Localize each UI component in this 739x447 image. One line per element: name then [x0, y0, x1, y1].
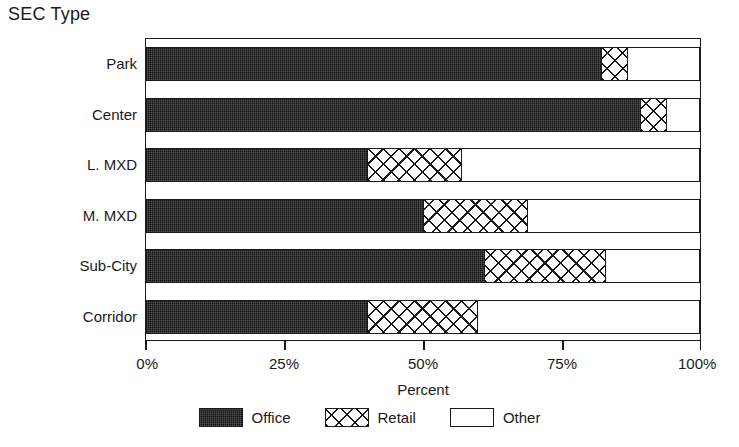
x-tick-mark — [562, 341, 564, 350]
category-label-m-mxd: M. MXD — [7, 208, 137, 223]
x-tick-mark — [145, 341, 147, 350]
x-tick-mark — [284, 341, 286, 350]
legend-label: Other — [503, 409, 541, 426]
bar-row — [146, 98, 700, 132]
legend-swatch-other — [450, 408, 494, 427]
bar-row — [146, 249, 700, 283]
bar-segment-office — [146, 47, 602, 81]
bar-segment-retail — [640, 98, 668, 132]
legend-label: Retail — [378, 409, 416, 426]
legend-swatch-office — [199, 408, 243, 427]
plot-area — [145, 38, 701, 341]
bar-segment-retail — [484, 249, 606, 283]
bar-segment-other — [605, 249, 700, 283]
bar-rows — [146, 39, 700, 340]
page-title: SEC Type — [8, 4, 90, 25]
bar-segment-office — [146, 98, 641, 132]
legend-label: Office — [252, 409, 291, 426]
bar-segment-retail — [367, 300, 478, 334]
x-tick-mark — [700, 341, 702, 350]
legend-swatch-retail — [325, 408, 369, 427]
bar-segment-other — [477, 300, 699, 334]
bar-row — [146, 300, 700, 334]
x-tick-mark — [423, 341, 425, 350]
category-label-corridor: Corridor — [7, 309, 137, 324]
x-tick-label: 50% — [408, 355, 438, 372]
bar-segment-office — [146, 199, 424, 233]
bar-segment-other — [461, 148, 700, 182]
bar-segment-retail — [367, 148, 462, 182]
bar-segment-other — [527, 199, 699, 233]
category-label-center: Center — [7, 107, 137, 122]
bar-row — [146, 148, 700, 182]
legend-item-office[interactable]: Office — [199, 408, 291, 427]
x-axis-title: Percent — [145, 381, 701, 398]
x-tick-label: 25% — [269, 355, 299, 372]
category-label-park: Park — [7, 56, 137, 71]
bar-row — [146, 199, 700, 233]
bar-segment-retail — [423, 199, 529, 233]
bar-segment-retail — [601, 47, 629, 81]
chart-legend: OfficeRetailOther — [0, 408, 739, 427]
x-tick-label: 75% — [547, 355, 577, 372]
bar-segment-other — [627, 47, 699, 81]
bar-segment-other — [666, 98, 699, 132]
legend-item-other[interactable]: Other — [450, 408, 541, 427]
bar-row — [146, 47, 700, 81]
bar-segment-office — [146, 249, 485, 283]
legend-item-retail[interactable]: Retail — [325, 408, 416, 427]
bar-segment-office — [146, 300, 368, 334]
category-label-l-mxd: L. MXD — [7, 157, 137, 172]
category-axis-labels: ParkCenterL. MXDM. MXDSub-CityCorridor — [0, 38, 137, 341]
x-tick-label: 0% — [136, 355, 158, 372]
bar-segment-office — [146, 148, 368, 182]
category-label-sub-city: Sub-City — [7, 258, 137, 273]
x-tick-label: 100% — [678, 355, 716, 372]
